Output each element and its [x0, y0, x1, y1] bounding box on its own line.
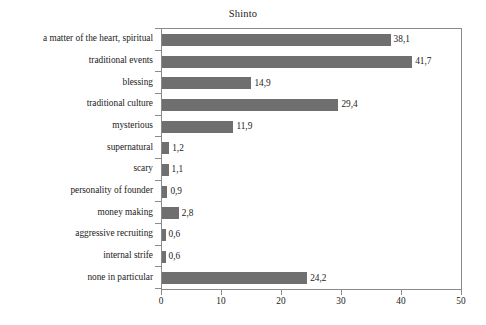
y-axis-label: a matter of the heart, spiritual — [43, 33, 153, 44]
bars-layer: 38,141,714,929,411,91,21,10,92,80,60,624… — [162, 29, 462, 289]
y-axis-category-labels: a matter of the heart, spiritualtraditio… — [0, 28, 157, 290]
x-axis-tick — [221, 290, 222, 295]
bar — [162, 186, 167, 198]
x-axis-tick-label: 10 — [216, 296, 225, 307]
x-axis-tick-label: 30 — [336, 296, 345, 307]
y-axis-label: internal strife — [103, 250, 153, 261]
bar — [162, 229, 166, 241]
x-axis-tick — [401, 290, 402, 295]
bar-value-label: 1,2 — [172, 143, 184, 154]
x-axis-tick-label: 20 — [276, 296, 285, 307]
x-axis-tick — [161, 290, 162, 295]
bar-value-label: 0,9 — [170, 186, 182, 197]
y-axis-label: blessing — [123, 77, 153, 88]
y-axis-tick — [155, 288, 161, 289]
bar-value-label: 0,6 — [169, 229, 181, 240]
y-axis-label: traditional culture — [87, 98, 153, 109]
y-axis-tick — [155, 71, 161, 72]
bar-value-label: 24,2 — [310, 273, 326, 284]
x-axis-tick — [461, 290, 462, 295]
y-axis-label: traditional events — [89, 55, 153, 66]
y-axis-tick — [155, 115, 161, 116]
y-axis-tick — [155, 136, 161, 137]
y-axis-tick — [155, 245, 161, 246]
y-axis-label: personality of founder — [70, 185, 153, 196]
x-axis: 01020304050 — [161, 290, 462, 316]
bar — [162, 34, 391, 46]
y-axis-tick — [155, 180, 161, 181]
y-axis-label: scary — [133, 163, 153, 174]
bar-value-label: 38,1 — [394, 34, 410, 45]
chart-title: Shinto — [0, 8, 486, 19]
bar — [162, 77, 251, 89]
y-axis-label: aggressive recruiting — [75, 228, 153, 239]
x-axis-tick — [341, 290, 342, 295]
y-axis-tick — [155, 201, 161, 202]
bar-chart: Shinto a matter of the heart, spiritualt… — [0, 0, 486, 325]
x-axis-tick-label: 0 — [159, 296, 164, 307]
bar — [162, 121, 233, 133]
bar — [162, 56, 412, 68]
y-axis-tick — [155, 50, 161, 51]
bar-value-label: 14,9 — [254, 78, 270, 89]
y-axis-tick — [155, 223, 161, 224]
bar-value-label: 41,7 — [415, 56, 431, 67]
bar-value-label: 11,9 — [236, 121, 252, 132]
y-axis-label: supernatural — [107, 142, 153, 153]
bar — [162, 99, 338, 111]
x-axis-tick-label: 40 — [396, 296, 405, 307]
x-axis-tick — [281, 290, 282, 295]
bar — [162, 272, 307, 284]
y-axis-tick — [155, 158, 161, 159]
bar-value-label: 1,1 — [172, 164, 184, 175]
y-axis-label: none in particular — [87, 272, 153, 283]
y-axis-tick — [155, 28, 161, 29]
bar — [162, 164, 169, 176]
bar-value-label: 29,4 — [341, 99, 357, 110]
y-axis-tick — [155, 266, 161, 267]
y-axis-label: mysterious — [112, 120, 153, 131]
bar — [162, 142, 169, 154]
y-axis-tick — [155, 93, 161, 94]
x-axis-tick-label: 50 — [456, 296, 465, 307]
bar-value-label: 2,8 — [182, 208, 194, 219]
bar — [162, 251, 166, 263]
bar — [162, 207, 179, 219]
bar-value-label: 0,6 — [169, 251, 181, 262]
y-axis-label: money making — [97, 207, 153, 218]
